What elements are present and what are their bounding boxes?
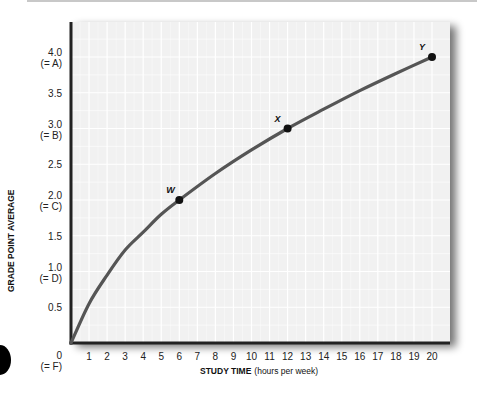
x-tick-label: 4 (140, 351, 146, 362)
y-tick-grade: (= D) (40, 273, 63, 284)
x-tick-label: 11 (264, 351, 275, 362)
y-tick-label: 3.0 (48, 119, 62, 130)
x-tick-label: 16 (354, 351, 366, 362)
y-tick-label: 1.5 (48, 231, 62, 242)
x-tick-label: 10 (246, 351, 258, 362)
x-tick-label: 2 (104, 351, 110, 362)
x-tick-label: 7 (195, 351, 201, 362)
point-w (175, 196, 183, 204)
point-y (428, 53, 436, 61)
x-tick-label: 18 (390, 351, 402, 362)
y-tick-label: 0.5 (48, 302, 62, 313)
x-tick-label: 19 (408, 351, 420, 362)
x-axis-title: STUDY TIME(hours per week) (200, 366, 318, 376)
x-tick-label: 5 (158, 351, 164, 362)
x-tick-label: 15 (336, 351, 348, 362)
x-tick-label: 8 (213, 351, 219, 362)
y-tick-label: 4.0 (48, 47, 62, 58)
y-tick-label: 1.0 (48, 262, 62, 273)
point-label-w: W (166, 185, 176, 195)
y-tick-label: 3.5 (48, 88, 62, 99)
y-tick-grade: (= B) (40, 130, 62, 141)
y-tick-label: 2.5 (48, 159, 62, 170)
y-tick-label: 2.0 (48, 190, 62, 201)
point-label-x: X (274, 114, 282, 124)
x-tick-label: 14 (318, 351, 330, 362)
y-tick-grade: (= C) (40, 201, 63, 212)
gpa-study-time-chart: 0.51.0(= D)1.52.0(= C)2.53.0(= B)3.54.0(… (0, 0, 479, 396)
x-tick-grade: (= F) (41, 361, 62, 372)
x-tick-label: 12 (282, 351, 294, 362)
y-axis-title: GRADE POINT AVERAGE (6, 189, 16, 292)
x-tick-label: 9 (231, 351, 237, 362)
x-tick-label: 17 (372, 351, 384, 362)
point-x (284, 125, 292, 133)
x-tick-label: 6 (177, 351, 183, 362)
y-tick-grade: (= A) (41, 58, 62, 69)
x-tick-label: 1 (86, 351, 92, 362)
x-tick-label: 3 (122, 351, 128, 362)
y-axis-ticks: 0.51.0(= D)1.52.0(= C)2.53.0(= B)3.54.0(… (40, 47, 63, 313)
x-tick-label: 13 (300, 351, 312, 362)
x-tick-label: 20 (426, 351, 438, 362)
point-label-y: Y (419, 42, 426, 52)
x-tick-label: 0 (56, 350, 62, 361)
